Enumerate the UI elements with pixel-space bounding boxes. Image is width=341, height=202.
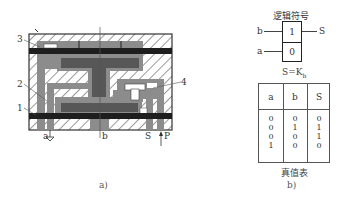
truth-table-header-b: b xyxy=(285,92,305,102)
lower-membrane xyxy=(29,113,172,119)
truth-table-cell: 0 xyxy=(261,123,281,132)
part-label-4: 4 xyxy=(181,77,187,87)
truth-table-cell: 1 xyxy=(309,123,329,132)
truth-table-cell: 1 xyxy=(309,132,329,141)
truth-table-cell: 0 xyxy=(285,141,305,150)
equation: S=Kb xyxy=(282,67,306,79)
symbol-box-bottom: 0 xyxy=(282,42,302,62)
truth-table-cell: 0 xyxy=(285,132,305,141)
part-label-2: 2 xyxy=(17,79,23,89)
lower-piston xyxy=(61,103,138,112)
port-p-label: P xyxy=(164,131,170,141)
symbol-top-value: 1 xyxy=(289,27,295,37)
part-label-1: 1 xyxy=(17,103,23,113)
figure-a-caption: a) xyxy=(99,180,108,190)
truth-table-cell: 0 xyxy=(285,114,305,123)
symbol-box-top: 1 xyxy=(282,21,302,43)
port-a-label: a xyxy=(43,131,48,141)
truth-table-cell: 0 xyxy=(261,114,281,123)
piston-stem xyxy=(92,68,106,102)
input-a-label: a xyxy=(257,46,262,56)
truth-table-cell: 1 xyxy=(261,141,281,150)
input-b-label: b xyxy=(257,26,263,36)
output-s-line xyxy=(302,31,317,32)
port-s-label: S xyxy=(145,131,151,141)
input-b-line xyxy=(264,31,282,32)
valve-section-drawing xyxy=(0,0,230,202)
truth-table-cell: 1 xyxy=(285,123,305,132)
truth-table-header-a: a xyxy=(261,92,281,102)
truth-table: a b S 0 0 0 0 1 1 0 0 1 1 0 0 xyxy=(258,83,330,163)
figure-b-caption: b) xyxy=(287,180,296,190)
poppet-valve-stem xyxy=(131,89,139,100)
symbol-bottom-value: 0 xyxy=(289,47,295,57)
truth-table-cell: 0 xyxy=(309,114,329,123)
truth-table-cell: 0 xyxy=(309,141,329,150)
truth-table-header-s: S xyxy=(309,92,329,102)
upper-membrane xyxy=(29,48,172,54)
port-b-label: b xyxy=(102,131,108,141)
part-label-3: 3 xyxy=(17,34,23,44)
truth-table-cell: 0 xyxy=(261,132,281,141)
input-a-line xyxy=(264,51,282,52)
truth-table-title: 真值表 xyxy=(281,166,308,179)
output-s-label: S xyxy=(319,26,325,36)
supply-arrow-icon xyxy=(159,131,163,136)
